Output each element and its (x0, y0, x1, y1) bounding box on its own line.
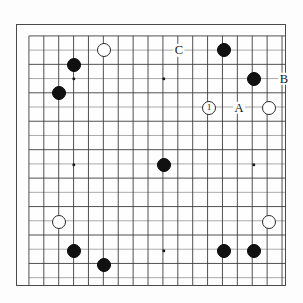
label-c[interactable]: C (173, 44, 184, 57)
stone-white-right-upper[interactable] (262, 101, 276, 115)
stone-black-bottom-right-a[interactable] (217, 244, 231, 258)
stone-white-lower-right[interactable] (262, 215, 276, 229)
label-a[interactable]: A (233, 101, 245, 114)
stone-black-bottom-left-a[interactable] (67, 244, 81, 258)
stone-white-top-left[interactable] (97, 43, 111, 57)
stone-white-lower-left[interactable] (52, 215, 66, 229)
stone-black-bottom-left-b[interactable] (97, 258, 111, 272)
stone-black-top-right-a[interactable] (217, 43, 231, 57)
go-board[interactable]: 1 CBA (16, 24, 286, 286)
stone-black-top-right-b[interactable] (247, 72, 261, 86)
go-board-grid (17, 25, 285, 285)
stone-black-upper-left-b[interactable] (52, 86, 66, 100)
label-b[interactable]: B (278, 73, 289, 86)
stone-white-move-1[interactable]: 1 (202, 101, 216, 115)
stone-black-center[interactable] (157, 158, 171, 172)
stone-move-number: 1 (203, 102, 215, 114)
stone-black-upper-left-a[interactable] (67, 58, 81, 72)
stone-black-bottom-right-b[interactable] (247, 244, 261, 258)
go-diagram-root: 1 CBA (0, 0, 303, 303)
